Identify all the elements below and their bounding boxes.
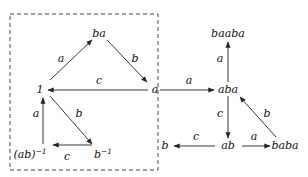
node-b: b (161, 139, 168, 152)
node-baba: baba (271, 139, 298, 152)
node-a: a (152, 83, 159, 96)
edge-label-ab-baba: a (251, 130, 258, 143)
node-baaba: baaba (211, 27, 245, 40)
edge-label-aba-baaba: a (217, 52, 224, 65)
edge-label-abinv-one: a (33, 107, 40, 120)
diagram-canvas: 1 ba a (ab)−1 b−1 baaba aba ab b baba a … (0, 0, 308, 177)
edge-arrow-ba-to-a (107, 40, 147, 82)
edge-label-ba-a: b (131, 52, 138, 65)
edge-label-a-aba: a (186, 74, 193, 87)
edge-label-one-ba: a (58, 52, 65, 65)
node-one: 1 (37, 83, 44, 96)
dashed-group-box (10, 14, 158, 170)
edge-label-binv-abinv: c (64, 150, 70, 163)
edge-label-a-one: c (96, 74, 102, 87)
node-aba: aba (218, 83, 238, 96)
node-b-inverse: b−1 (94, 147, 112, 161)
edge-label-baba-aba: b (263, 107, 270, 120)
edge-arrow-one-to-binv (50, 96, 92, 144)
edge-label-one-binv: b (75, 107, 82, 120)
edge-label-aba-ab: c (217, 107, 223, 120)
edge-arrow-one-to-ba (50, 40, 92, 80)
node-ab-inverse: (ab)−1 (13, 147, 46, 161)
edge-arrow-baba-to-aba (240, 97, 276, 137)
edge-label-ab-b: c (193, 130, 199, 143)
node-ba: ba (92, 27, 106, 40)
node-ab: ab (221, 139, 235, 152)
